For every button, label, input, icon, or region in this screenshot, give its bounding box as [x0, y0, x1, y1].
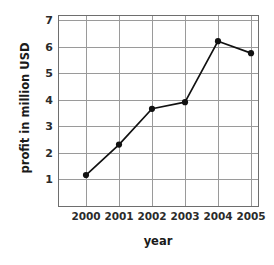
data-markers: 2000: 1.152001: 2.32002: 3.652003: 3.920… [83, 38, 254, 178]
data-line [86, 41, 251, 175]
data-point-marker: 2003: 3.9 [182, 99, 188, 105]
plot-area: 2000: 1.152001: 2.32002: 3.652003: 3.920… [0, 0, 274, 265]
series-profit-line [86, 41, 251, 175]
data-point-marker: 2001: 2.3 [116, 141, 122, 147]
data-point-marker: 2005: 5.75 [248, 50, 254, 56]
data-point-marker: 2000: 1.15 [83, 172, 89, 178]
data-point-marker: 2004: 6.2 [215, 38, 221, 44]
line-chart: profit in million USD year 1234567 20002… [0, 0, 274, 265]
data-point-marker: 2002: 3.65 [149, 106, 155, 112]
